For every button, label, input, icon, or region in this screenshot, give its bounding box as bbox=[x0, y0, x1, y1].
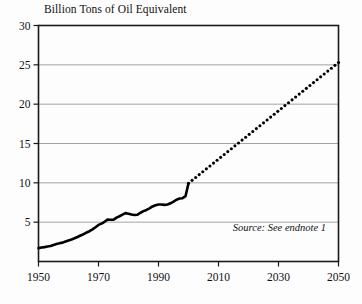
projection-dot bbox=[251, 130, 254, 133]
y-axis-tick-label: 25 bbox=[19, 59, 31, 71]
y-axis-ticks-group: 51015202530 bbox=[19, 20, 39, 229]
projection-dot bbox=[316, 78, 319, 81]
projection-dot bbox=[326, 70, 329, 73]
projection-dot bbox=[330, 67, 333, 70]
projection-dot bbox=[226, 150, 229, 153]
projection-dot bbox=[333, 64, 336, 67]
projection-dot bbox=[244, 136, 247, 139]
projection-dot bbox=[198, 173, 201, 176]
projection-dot bbox=[323, 72, 326, 75]
projection-dot bbox=[280, 107, 283, 110]
y-axis-tick-label: 20 bbox=[19, 98, 31, 110]
projection-dot bbox=[230, 147, 233, 150]
x-axis-tick-label: 2010 bbox=[207, 271, 230, 283]
projection-dot bbox=[194, 176, 197, 179]
projection-dot bbox=[305, 87, 308, 90]
projection-dot bbox=[255, 127, 258, 130]
y-axis-tick-label: 15 bbox=[19, 138, 31, 150]
x-axis-tick-label: 1970 bbox=[87, 271, 110, 283]
projection-dot bbox=[216, 159, 219, 162]
x-axis-tick-label: 2050 bbox=[327, 271, 350, 283]
projection-dot bbox=[337, 61, 340, 64]
projection-dot bbox=[248, 133, 251, 136]
projection-dot bbox=[273, 113, 276, 116]
y-axis-tick-label: 5 bbox=[25, 216, 31, 228]
projection-dot bbox=[283, 104, 286, 107]
x-axis-tick-label: 2030 bbox=[267, 271, 290, 283]
projection-dot bbox=[312, 81, 315, 84]
projection-dot bbox=[308, 84, 311, 87]
data-line-projection bbox=[187, 61, 340, 185]
projection-dot bbox=[191, 179, 194, 182]
projection-dot bbox=[205, 167, 208, 170]
projection-dot bbox=[319, 75, 322, 78]
projection-dot bbox=[219, 156, 222, 159]
projection-dot bbox=[237, 141, 240, 144]
projection-dot bbox=[187, 182, 190, 185]
projection-dot bbox=[287, 101, 290, 104]
projection-dot bbox=[276, 110, 279, 113]
projection-dot bbox=[212, 162, 215, 165]
x-axis-tick-label: 1990 bbox=[147, 271, 170, 283]
projection-dot bbox=[291, 98, 294, 101]
y-axis-tick-label: 30 bbox=[19, 20, 31, 32]
source-note: Source: See endnote 1 bbox=[233, 222, 326, 233]
projection-dot bbox=[269, 116, 272, 119]
projection-dot bbox=[298, 93, 301, 96]
data-line-historical bbox=[39, 183, 189, 248]
chart-canvas: 51015202530 195019701990201020302050 bbox=[0, 0, 362, 304]
projection-dot bbox=[262, 121, 265, 124]
figure-container: Billion Tons of Oil Equivalent 510152025… bbox=[0, 0, 362, 304]
projection-dot bbox=[241, 139, 244, 142]
x-axis-ticks-group: 195019701990201020302050 bbox=[27, 262, 350, 283]
x-axis-tick-label: 1950 bbox=[27, 271, 50, 283]
projection-dot bbox=[266, 118, 269, 121]
y-axis-tick-label: 10 bbox=[19, 177, 31, 189]
projection-dot bbox=[294, 95, 297, 98]
projection-dot bbox=[301, 90, 304, 93]
gridlines-group bbox=[39, 65, 339, 222]
projection-dot bbox=[223, 153, 226, 156]
projection-dot bbox=[201, 170, 204, 173]
projection-dot bbox=[258, 124, 261, 127]
projection-dot bbox=[208, 164, 211, 167]
projection-dot bbox=[233, 144, 236, 147]
